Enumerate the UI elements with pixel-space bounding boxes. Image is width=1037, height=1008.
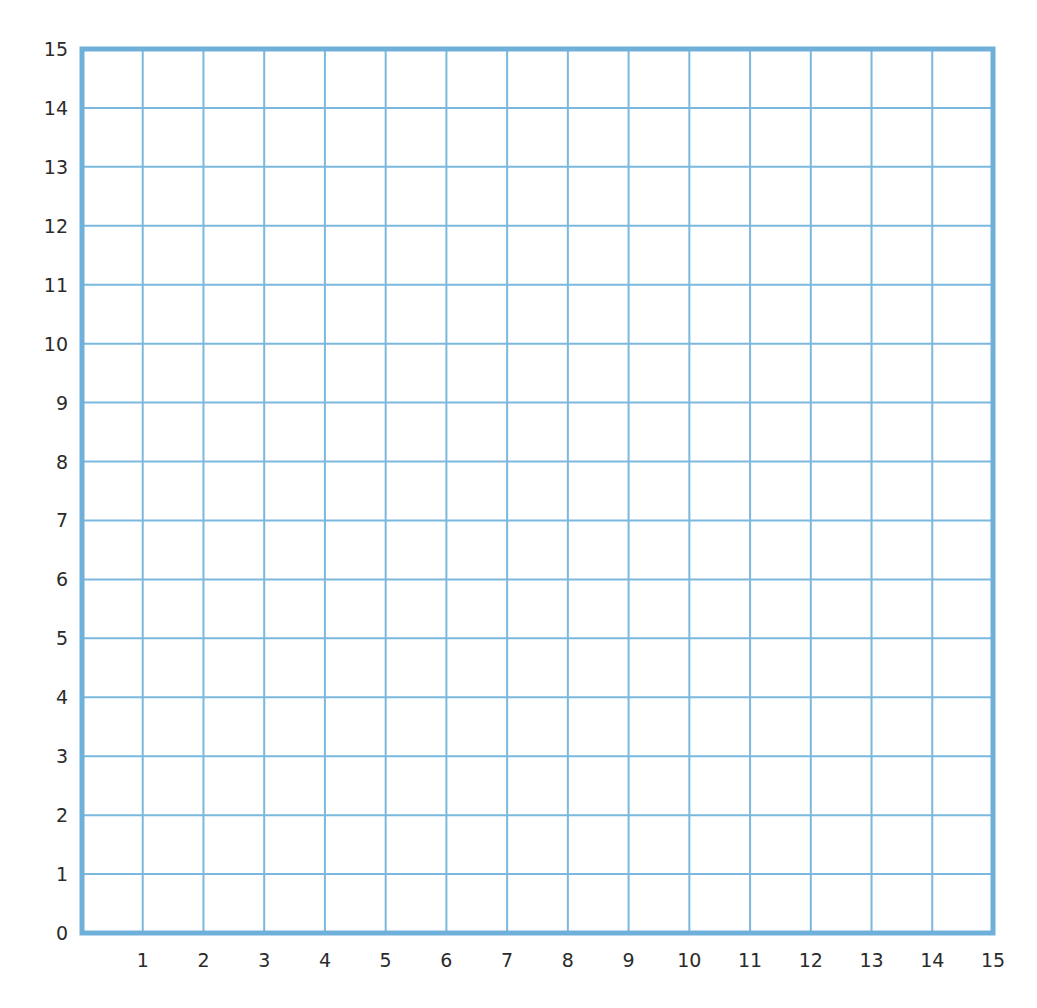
plot-border bbox=[82, 49, 993, 933]
y-tick-label: 8 bbox=[56, 451, 68, 473]
y-tick-label: 12 bbox=[44, 215, 68, 237]
y-axis-tick-labels: 0123456789101112131415 bbox=[44, 38, 68, 944]
x-tick-label: 3 bbox=[258, 949, 270, 971]
coordinate-grid-chart: 0123456789101112131415 12345678910111213… bbox=[0, 0, 1037, 1008]
y-tick-label: 10 bbox=[44, 333, 68, 355]
y-tick-label: 7 bbox=[56, 509, 68, 531]
x-axis-tick-labels: 123456789101112131415 bbox=[137, 949, 1005, 971]
y-tick-label: 13 bbox=[44, 156, 68, 178]
y-tick-label: 5 bbox=[56, 627, 68, 649]
x-tick-label: 4 bbox=[319, 949, 331, 971]
y-tick-label: 2 bbox=[56, 804, 68, 826]
x-tick-label: 7 bbox=[501, 949, 513, 971]
y-tick-label: 3 bbox=[56, 745, 68, 767]
grid-lines bbox=[82, 49, 993, 933]
y-tick-label: 0 bbox=[56, 922, 68, 944]
x-tick-label: 12 bbox=[799, 949, 823, 971]
y-tick-label: 9 bbox=[56, 392, 68, 414]
x-tick-label: 13 bbox=[859, 949, 883, 971]
y-tick-label: 15 bbox=[44, 38, 68, 60]
y-tick-label: 1 bbox=[56, 863, 68, 885]
x-tick-label: 1 bbox=[137, 949, 149, 971]
x-tick-label: 6 bbox=[440, 949, 452, 971]
x-tick-label: 15 bbox=[981, 949, 1005, 971]
x-tick-label: 11 bbox=[738, 949, 762, 971]
x-tick-label: 8 bbox=[562, 949, 574, 971]
y-tick-label: 14 bbox=[44, 97, 68, 119]
x-tick-label: 14 bbox=[920, 949, 944, 971]
x-tick-label: 5 bbox=[380, 949, 392, 971]
y-tick-label: 6 bbox=[56, 568, 68, 590]
y-tick-label: 11 bbox=[44, 274, 68, 296]
x-tick-label: 2 bbox=[197, 949, 209, 971]
x-tick-label: 9 bbox=[623, 949, 635, 971]
y-tick-label: 4 bbox=[56, 686, 68, 708]
x-tick-label: 10 bbox=[677, 949, 701, 971]
